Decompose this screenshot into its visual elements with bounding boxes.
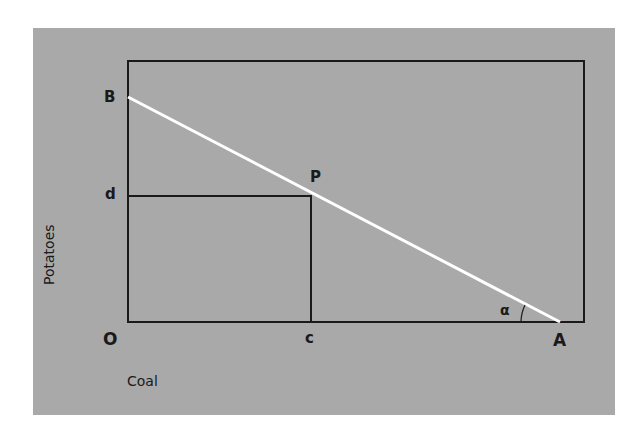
- budget-line: [128, 97, 560, 322]
- point-label-a: A: [553, 332, 566, 349]
- point-label-o: O: [103, 331, 117, 348]
- angle-label-alpha: α: [500, 303, 510, 317]
- point-label-b: B: [104, 90, 115, 105]
- diagram-svg: [0, 0, 637, 440]
- y-axis-label: Potatoes: [42, 224, 56, 285]
- point-label-d: d: [105, 187, 116, 202]
- point-label-p: P: [310, 170, 321, 185]
- frame: [128, 61, 584, 322]
- x-axis-label: Coal: [127, 374, 158, 388]
- point-label-c: c: [305, 331, 314, 346]
- inner-rectangle: [128, 196, 311, 322]
- angle-arc: [521, 305, 525, 322]
